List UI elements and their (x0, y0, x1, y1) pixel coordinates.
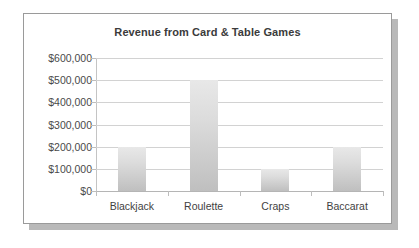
bar-craps[interactable] (261, 169, 289, 191)
x-axis-label-blackjack: Blackjack (110, 200, 154, 212)
gridline (96, 102, 383, 103)
gridline (96, 80, 383, 81)
y-axis-label: $400,000 (26, 96, 92, 108)
x-axis-label-craps: Craps (261, 200, 289, 212)
y-axis-tick (91, 125, 96, 126)
y-axis-tick (91, 102, 96, 103)
y-axis-tick (91, 58, 96, 59)
bar-blackjack[interactable] (118, 147, 146, 191)
y-axis-label: $600,000 (26, 52, 92, 64)
bar-roulette[interactable] (190, 80, 218, 191)
x-axis-tick (240, 191, 241, 196)
y-axis-labels: $600,000$500,000$400,000$300,000$200,000… (24, 14, 92, 223)
x-axis-tick (383, 191, 384, 196)
gridline (96, 125, 383, 126)
plot-area (96, 58, 383, 191)
y-axis-label: $200,000 (26, 141, 92, 153)
gridline (96, 58, 383, 59)
y-axis-label: $500,000 (26, 74, 92, 86)
x-axis-tick (96, 191, 97, 196)
y-axis-label: $0 (26, 185, 92, 197)
y-axis-label: $100,000 (26, 163, 92, 175)
x-axis-label-roulette: Roulette (184, 200, 223, 212)
y-axis-tick (91, 169, 96, 170)
y-axis-tick (91, 80, 96, 81)
y-axis-tick (91, 147, 96, 148)
x-axis-label-baccarat: Baccarat (326, 200, 367, 212)
x-axis-tick (168, 191, 169, 196)
y-axis-label: $300,000 (26, 119, 92, 131)
bar-baccarat[interactable] (333, 147, 361, 191)
x-axis-tick (311, 191, 312, 196)
chart-card: Revenue from Card & Table Games $600,000… (23, 13, 392, 224)
